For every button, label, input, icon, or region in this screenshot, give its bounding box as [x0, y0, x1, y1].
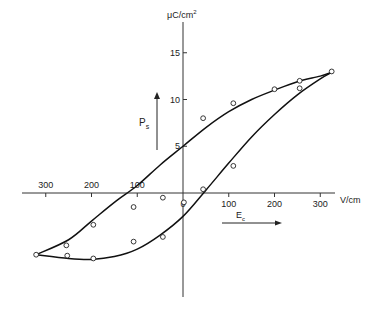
ec-label: Ec: [236, 210, 245, 222]
data-point-marker: [272, 87, 277, 92]
data-point-marker: [131, 239, 136, 244]
data-point-marker: [297, 86, 302, 91]
x-tick-label: 200: [267, 199, 282, 209]
data-point-marker: [65, 253, 70, 258]
hysteresis-chart: 3002001000100200300 51015 V/cm μC/cm2 Ps…: [0, 0, 385, 311]
x-tick-label: 300: [38, 180, 53, 190]
y-ticks: 51015: [170, 48, 187, 152]
x-tick-label: 100: [221, 199, 236, 209]
data-point-marker: [201, 187, 206, 192]
y-tick-label: 10: [170, 95, 180, 105]
data-point-marker: [160, 235, 165, 240]
data-point-marker: [182, 200, 187, 205]
ec-arrowhead-icon: [275, 221, 282, 226]
x-axis-unit: V/cm: [340, 195, 361, 205]
ec-annotation: Ec: [222, 210, 282, 226]
x-tick-label: 200: [84, 180, 99, 190]
data-point-marker: [160, 195, 165, 200]
x-tick-label: 300: [313, 199, 328, 209]
data-point-marker: [201, 116, 206, 121]
data-point-marker: [131, 205, 136, 210]
data-point-marker: [231, 101, 236, 106]
ps-annotation: Ps: [139, 92, 160, 150]
ps-arrowhead-icon: [154, 92, 160, 99]
data-point-marker: [91, 222, 96, 227]
data-point-marker: [64, 243, 69, 248]
data-point-marker: [91, 256, 96, 261]
data-point-marker: [329, 69, 334, 74]
data-point-marker: [231, 163, 236, 168]
y-axis-unit: μC/cm2: [167, 9, 197, 20]
y-tick-label: 15: [170, 48, 180, 58]
chart-svg: 3002001000100200300 51015 V/cm μC/cm2 Ps…: [0, 0, 385, 311]
data-point-marker: [34, 252, 39, 257]
ps-label: Ps: [139, 117, 150, 130]
data-point-marker: [297, 78, 302, 83]
